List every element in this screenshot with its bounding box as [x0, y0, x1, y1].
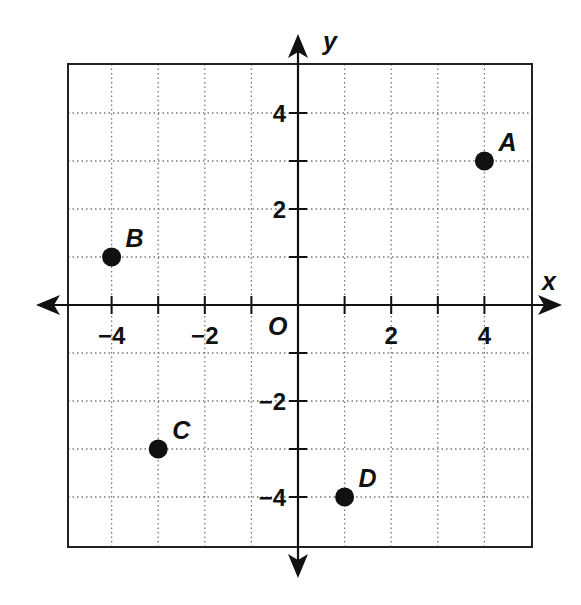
y-tick-label: −4	[259, 484, 287, 511]
point-marker	[149, 440, 168, 459]
x-tick-label: −2	[191, 322, 218, 349]
point-label: A	[497, 128, 516, 156]
y-axis-label: y	[321, 27, 338, 55]
point-marker	[335, 488, 354, 507]
data-point-b: B	[102, 224, 144, 267]
data-point-d: D	[335, 464, 377, 507]
y-tick-label: −2	[259, 388, 286, 415]
point-label: C	[172, 416, 191, 444]
y-tick-label: 4	[273, 100, 287, 127]
origin-label: O	[268, 312, 288, 340]
y-tick-label: 2	[273, 196, 286, 223]
point-label: D	[359, 464, 377, 492]
data-point-a: A	[475, 128, 517, 171]
x-tick-label: 4	[478, 322, 492, 349]
point-marker	[475, 152, 494, 171]
x-tick-labels: −4−224	[98, 322, 492, 349]
x-tick-label: −4	[98, 322, 126, 349]
x-tick-label: 2	[385, 322, 398, 349]
data-point-c: C	[149, 416, 192, 459]
x-axis-label: x	[540, 267, 557, 295]
point-marker	[102, 248, 121, 267]
data-points: ABCD	[102, 128, 516, 507]
point-label: B	[126, 224, 144, 252]
coordinate-plane: −4−224 42−2−4 x y O ABCD	[0, 0, 581, 605]
